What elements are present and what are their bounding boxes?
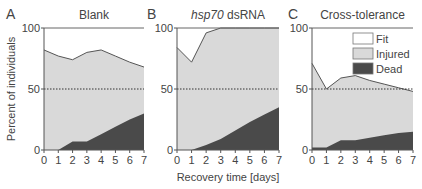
x-tick-label: 6: [127, 154, 133, 166]
x-tick-label: 7: [276, 154, 282, 166]
legend-label-dead: Dead: [376, 63, 402, 75]
legend-swatch-fit: [353, 33, 373, 44]
x-tick-label: 3: [218, 154, 224, 166]
panel-c: 05010001234567CCross-toleranceFitInjured…: [288, 6, 416, 166]
x-tick-label: 5: [112, 154, 118, 166]
panel-title: Cross-tolerance: [320, 8, 405, 22]
x-tick-label: 7: [410, 154, 416, 166]
panel-a: 05010001234567ABlank: [6, 6, 147, 166]
x-tick-label: 0: [41, 154, 47, 166]
x-tick-label: 0: [174, 154, 180, 166]
x-tick-label: 3: [84, 154, 90, 166]
x-tick-label: 7: [141, 154, 147, 166]
x-tick-label: 4: [367, 154, 373, 166]
y-tick-label: 100: [290, 22, 308, 34]
x-tick-label: 1: [189, 154, 195, 166]
y-axis-label: Percent of individuals: [5, 36, 17, 141]
legend-swatch-injured: [353, 48, 373, 59]
x-tick-label: 4: [232, 154, 238, 166]
legend-label-injured: Injured: [376, 48, 410, 60]
y-tick-label: 50: [161, 83, 173, 95]
y-tick-label: 0: [302, 144, 308, 156]
x-tick-label: 2: [338, 154, 344, 166]
legend-swatch-dead: [353, 63, 373, 74]
y-tick-label: 50: [296, 83, 308, 95]
panel-letter: C: [288, 6, 298, 22]
x-tick-label: 3: [352, 154, 358, 166]
y-tick-label: 50: [28, 83, 40, 95]
x-tick-label: 6: [396, 154, 402, 166]
x-tick-label: 1: [55, 154, 61, 166]
panel-letter: B: [147, 6, 156, 22]
x-tick-label: 0: [309, 154, 315, 166]
x-tick-label: 5: [381, 154, 387, 166]
x-axis-label: Recovery time [days]: [177, 171, 280, 183]
y-tick-label: 0: [167, 144, 173, 156]
x-tick-label: 4: [98, 154, 104, 166]
panel-letter: A: [6, 6, 16, 22]
x-tick-label: 2: [70, 154, 76, 166]
x-tick-label: 2: [203, 154, 209, 166]
y-tick-label: 0: [34, 144, 40, 156]
figure: Percent of individuals Recovery time [da…: [0, 0, 422, 189]
legend-label-fit: Fit: [376, 33, 388, 45]
x-tick-label: 1: [323, 154, 329, 166]
panel-title: Blank: [79, 8, 110, 22]
panel-title: hsp70 dsRNA: [191, 8, 265, 22]
x-tick-label: 6: [261, 154, 267, 166]
y-tick-label: 100: [22, 22, 40, 34]
x-tick-label: 5: [247, 154, 253, 166]
panel-b: 05010001234567Bhsp70 dsRNA: [147, 6, 282, 166]
y-tick-label: 100: [155, 22, 173, 34]
